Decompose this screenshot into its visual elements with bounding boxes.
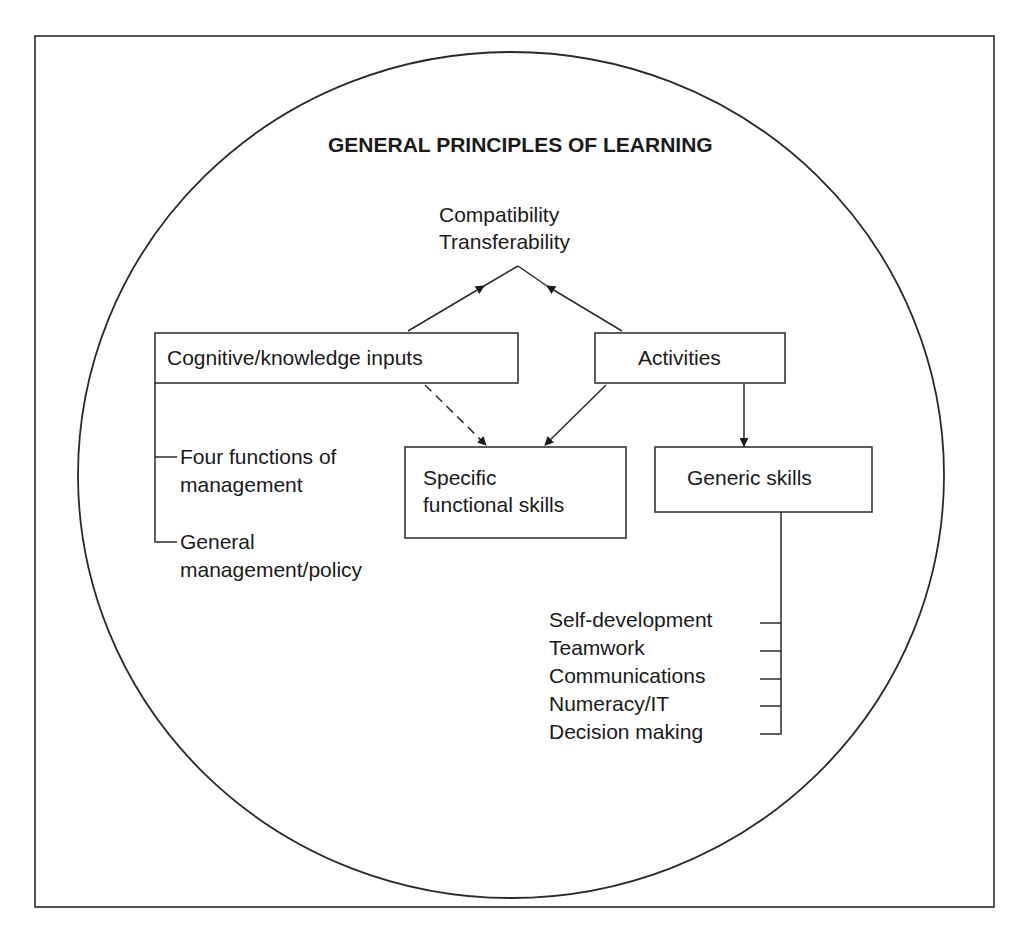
cognitive-branch-bracket: [155, 383, 177, 542]
edge-outcome-apex-left: [484, 266, 518, 286]
edge-activities-to-outcome: [547, 286, 622, 331]
branch-general-mgmt-line1: General: [180, 530, 255, 553]
edge-outcome-apex-right: [518, 266, 547, 286]
branch-communications: Communications: [549, 664, 705, 687]
branch-self-development: Self-development: [549, 608, 713, 631]
outcome-compatibility: Compatibility: [439, 203, 560, 226]
outcome-transferability: Transferability: [439, 230, 571, 253]
branch-numeracy-it: Numeracy/IT: [549, 692, 669, 715]
edge-cognitive-to-outcome: [408, 286, 484, 331]
branch-decision-making: Decision making: [549, 720, 703, 743]
branch-four-functions-line1: Four functions of: [180, 445, 337, 468]
node-activities-label: Activities: [638, 346, 721, 369]
edge-activities-to-specific: [545, 385, 606, 445]
node-specific-line1: Specific: [423, 466, 497, 489]
branch-four-functions-line2: management: [180, 473, 303, 496]
node-generic-label: Generic skills: [687, 466, 812, 489]
branch-teamwork: Teamwork: [549, 636, 645, 659]
edge-cognitive-to-specific-dashed: [425, 385, 486, 445]
node-specific-line2: functional skills: [423, 493, 564, 516]
branch-general-mgmt-line2: management/policy: [180, 558, 363, 581]
node-cognitive-label: Cognitive/knowledge inputs: [167, 346, 423, 369]
diagram-figure: GENERAL PRINCIPLES OF LEARNING Compatibi…: [0, 0, 1016, 931]
diagram-title: GENERAL PRINCIPLES OF LEARNING: [328, 133, 713, 156]
